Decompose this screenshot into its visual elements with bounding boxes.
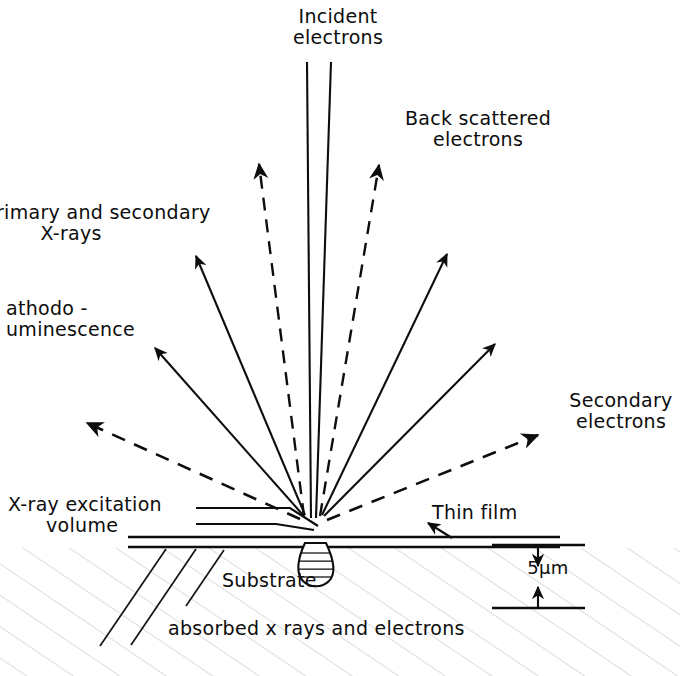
diagram-root: Incident electrons Back scattered electr… xyxy=(0,0,680,676)
label-back-scattered-electrons: Back scattered electrons xyxy=(388,108,568,151)
ray-incident-beam-left xyxy=(307,62,311,518)
label-primary-and-secondary-xrays: rimary and secondary X-rays xyxy=(0,202,216,245)
label-cathodoluminescence: athodo - uminescence xyxy=(6,298,186,341)
label-xray-excitation-volume: X-ray excitation volume xyxy=(8,494,228,537)
label-substrate: Substrate xyxy=(222,570,382,591)
ray-backscattered-left xyxy=(259,164,304,516)
ray-right-emission-lower xyxy=(324,344,495,516)
ray-cathodoluminescence xyxy=(155,348,303,515)
label-incident-electrons: Incident electrons xyxy=(248,6,428,49)
ray-right-emission-upper xyxy=(322,254,447,515)
ray-incident-beam-right xyxy=(316,62,331,518)
label-absorbed-xrays-and-electrons: absorbed x rays and electrons xyxy=(168,618,498,639)
label-secondary-electrons: Secondary electrons xyxy=(546,390,680,433)
label-scale-bar-value: 5μm xyxy=(508,558,588,578)
ray-backscattered-right xyxy=(320,165,379,516)
ray-primary-secondary-xrays xyxy=(196,256,305,515)
label-thin-film: Thin film xyxy=(432,502,562,523)
